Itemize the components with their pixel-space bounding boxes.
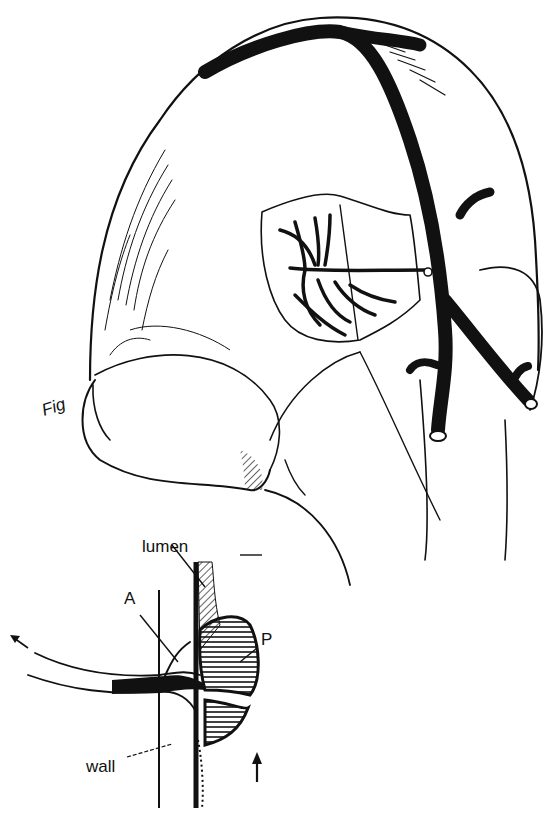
fold-p-upper [200, 617, 259, 695]
vessel-black-segment [112, 675, 205, 694]
right-loop-line [505, 420, 507, 560]
right-loop-inner [420, 380, 427, 560]
label-wall: wall [85, 757, 115, 776]
vascular-network [280, 215, 425, 335]
branch-upper-right [460, 192, 490, 215]
wall-leader [127, 744, 172, 757]
vessel-cut-end [430, 431, 446, 441]
lower-body-curve [265, 490, 350, 585]
label-a: A [124, 589, 136, 608]
label-lumen: lumen [142, 537, 188, 556]
vessel-fork-up [165, 642, 190, 676]
lower-loop-crease [93, 385, 110, 440]
right-fold-inner [285, 460, 305, 495]
cutaway-segment [261, 194, 432, 342]
cutaway-outline [261, 194, 420, 342]
right-fold [270, 352, 360, 440]
left-shading [105, 150, 175, 355]
left-mid-line [360, 352, 440, 520]
branch-lower-left [410, 362, 437, 370]
label-p: P [261, 630, 272, 649]
mesenteric-vessels [205, 31, 537, 441]
fold-p-lower [205, 700, 248, 745]
inset-diagram: lumen A P wall [10, 537, 272, 808]
lower-loop-left [83, 380, 271, 490]
loop-inner-fold [95, 355, 279, 470]
intestinal-loop [83, 17, 542, 585]
loop-crease-shade [130, 326, 230, 350]
artist-signature: Fig [39, 394, 68, 420]
flow-arrow-up [252, 752, 262, 782]
vessel-cut-end-right [525, 399, 537, 409]
mucosa-lower-stipple [198, 740, 203, 808]
vessel-node [424, 268, 432, 276]
lower-loop-hatch [240, 450, 263, 490]
anatomical-illustration: Fig lu [0, 0, 552, 822]
flow-arrow-left [10, 635, 28, 648]
